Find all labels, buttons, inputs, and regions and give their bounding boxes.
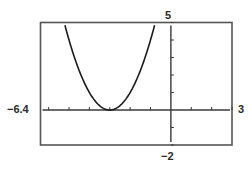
y-min-label: −2	[161, 151, 174, 162]
parabola-curve	[65, 25, 155, 110]
graphing-calculator-plot	[0, 0, 248, 170]
y-max-label: 5	[165, 10, 171, 21]
axis-ticks	[49, 23, 232, 146]
x-min-label: −6.4	[7, 104, 29, 115]
x-max-label: 3	[238, 104, 244, 115]
